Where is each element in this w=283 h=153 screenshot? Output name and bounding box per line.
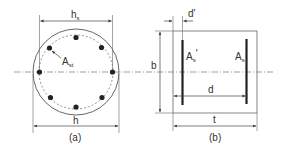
- ast-leader-arrow: [52, 51, 61, 58]
- ast-label: Ast: [62, 56, 74, 68]
- section-diagram: Ast hs h (a) As' As d' b d: [0, 0, 283, 153]
- t-label: t: [213, 114, 216, 125]
- rebar-dot: [73, 35, 78, 40]
- rebar-dot: [73, 104, 78, 109]
- caption-a: (a): [69, 132, 81, 143]
- dprime-label: d': [188, 8, 196, 19]
- hs-label: hs: [71, 9, 80, 21]
- rebar-dot: [48, 95, 53, 100]
- b-label: b: [151, 60, 157, 71]
- rebar-dot: [99, 45, 104, 50]
- caption-b: (b): [209, 132, 221, 143]
- rebar-dot: [47, 45, 52, 50]
- rebar-dot: [110, 69, 115, 74]
- h-label: h: [73, 115, 79, 126]
- rebar-dot: [99, 95, 104, 100]
- figure-b-rectangular-section: As' As d' b d t (b): [151, 8, 257, 143]
- as-prime-label: As': [186, 48, 198, 63]
- figure-a-circular-section: Ast hs h (a): [33, 9, 119, 143]
- d-label: d: [208, 84, 214, 95]
- as-label: As: [235, 51, 245, 63]
- rebar-dot: [37, 69, 42, 74]
